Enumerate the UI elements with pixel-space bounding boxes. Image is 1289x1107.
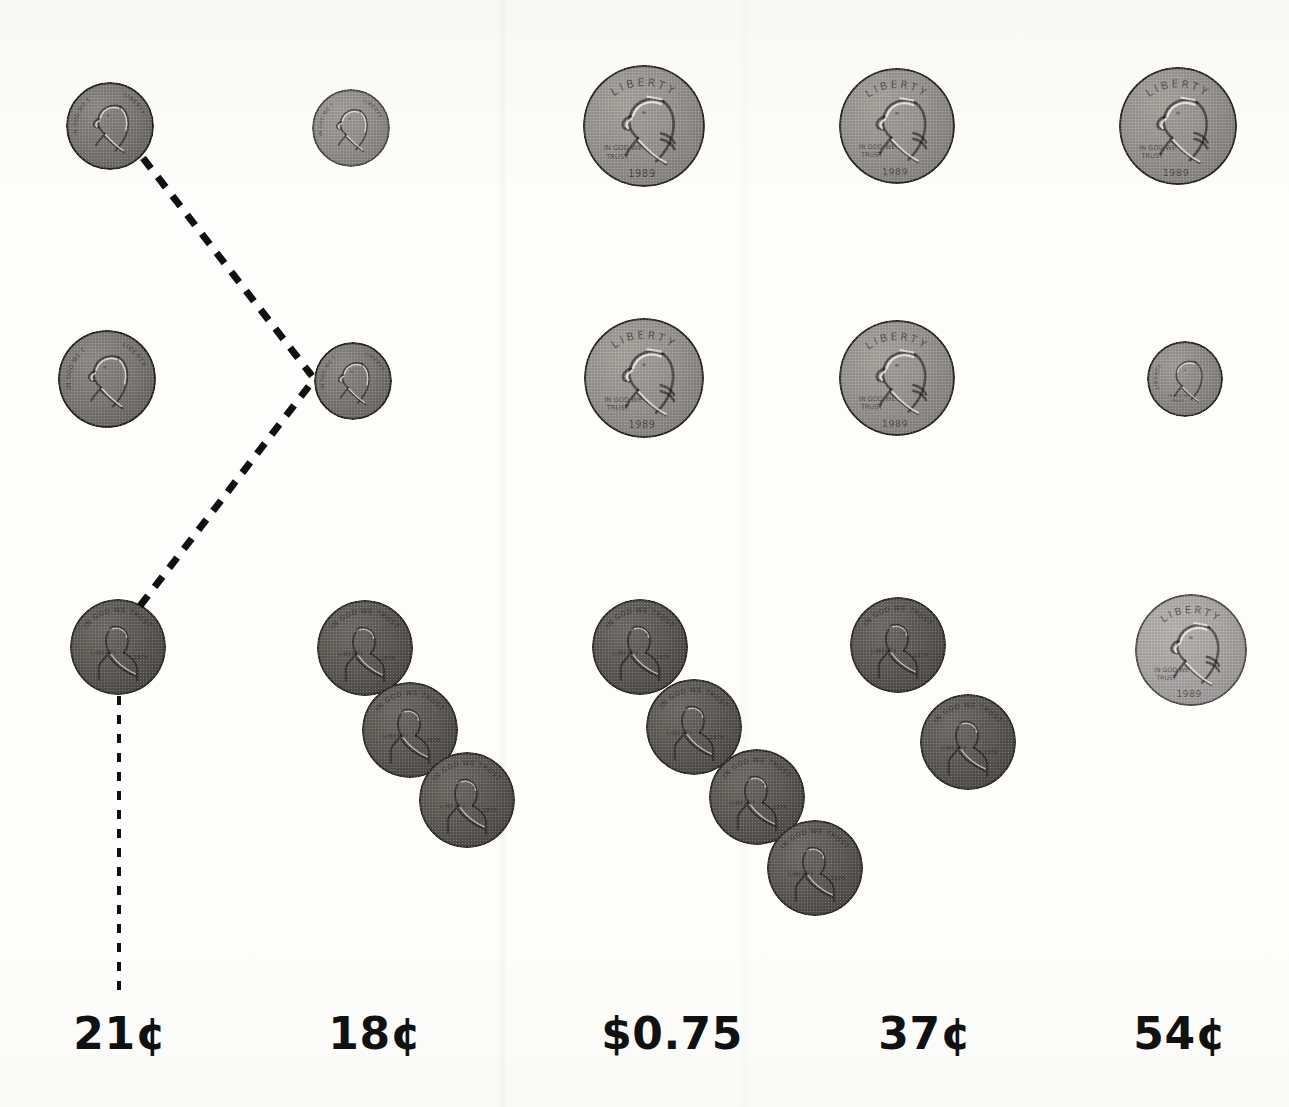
coin-quarter: LIBERTY IN GOD WE: [583, 65, 705, 187]
amount-label-col-3: $0.75: [601, 1008, 743, 1059]
coin-quarter: LIBERTY IN GOD WE: [839, 320, 955, 436]
connector-penny-to-nickel: [140, 382, 312, 606]
coin-texture: [920, 694, 1016, 790]
coin-nickel: IN GOD WE TRUST LIBERTY: [314, 342, 392, 420]
coin-texture: [66, 82, 154, 170]
coin-texture: [1147, 341, 1223, 417]
coin-texture: [767, 820, 863, 916]
amount-label-col-4: 37¢: [878, 1008, 971, 1059]
amount-label-col-1: 21¢: [73, 1008, 166, 1059]
coin-texture: [1119, 67, 1237, 185]
coin-texture: [583, 65, 705, 187]
coin-texture: [70, 599, 166, 695]
coin-texture: [419, 752, 515, 848]
coin-nickel: IN GOD WE TRUST LIBERTY: [66, 82, 154, 170]
coin-penny: IN GOD WE TRUST LIBERTY 1974: [920, 694, 1016, 790]
coin-texture: [850, 597, 946, 693]
amount-label-col-5: 54¢: [1133, 1008, 1226, 1059]
coin-penny: IN GOD WE TRUST LIBERTY 1974: [419, 752, 515, 848]
coin-quarter: LIBERTY IN GOD WE: [584, 318, 704, 438]
coin-quarter: LIBERTY IN GOD WE: [1119, 67, 1237, 185]
coin-nickel: IN GOD WE TRUST LIBERTY: [58, 330, 156, 428]
coin-texture: [312, 89, 390, 167]
coin-penny: IN GOD WE TRUST LIBERTY 1974: [850, 597, 946, 693]
amount-label-col-2: 18¢: [328, 1008, 421, 1059]
coin-penny: IN GOD WE TRUST LIBERTY 1974: [70, 599, 166, 695]
coin-texture: [58, 330, 156, 428]
coin-quarter: LIBERTY IN GOD WE: [839, 68, 955, 184]
coin-penny: IN GOD WE TRUST LIBERTY 1974: [767, 820, 863, 916]
paper-fold-right: [740, 0, 750, 1107]
coin-texture: [839, 68, 955, 184]
coin-texture: [314, 342, 392, 420]
coin-texture: [1135, 594, 1247, 706]
coin-nickel: IN GOD WE TRUST LIBERTY: [312, 89, 390, 167]
coin-quarter: LIBERTY IN GOD WE: [1135, 594, 1247, 706]
coin-texture: [839, 320, 955, 436]
connector-nickel-to-nickel: [143, 158, 312, 376]
paper-fold-left: [498, 0, 508, 1107]
coin-texture: [584, 318, 704, 438]
coin-dime: LIBERTY IN GOD WE TRUST: [1147, 341, 1223, 417]
worksheet-page: IN GOD WE TRUST LIBERTY: [0, 0, 1289, 1107]
